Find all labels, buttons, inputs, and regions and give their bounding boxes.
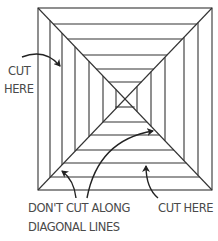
square-lines	[38, 8, 212, 190]
dont-cut-arrow-upper	[87, 131, 153, 198]
arrows	[22, 54, 158, 198]
cut-here-bottom-arrow	[146, 166, 158, 198]
dont-cut-label-line1: DON'T CUT ALONG	[28, 203, 130, 215]
cut-here-bottom-label: CUT HERE	[158, 203, 213, 215]
cut-here-left-label-line2: HERE	[4, 84, 34, 96]
cut-here-left-label-line1: CUT	[8, 66, 30, 78]
dont-cut-label-line2: DIAGONAL LINES	[28, 222, 120, 234]
dont-cut-arrow-lower	[62, 171, 76, 198]
